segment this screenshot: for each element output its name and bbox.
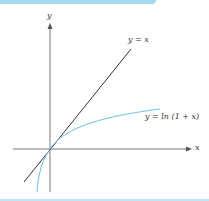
line-label: y = x [128,35,149,44]
y-axis-arrow-icon [48,23,53,29]
line-y-equals-x [24,49,131,182]
curve-label: y = ln (1 + x) [145,112,199,121]
diagram-figure: y x y = x y = ln (1 + x) [0,0,209,201]
plot-canvas [0,0,209,201]
y-axis [48,23,53,192]
curve-ln-1-plus-x [37,109,160,192]
x-axis [13,147,192,152]
x-axis-arrow-icon [186,147,192,152]
y-axis-label: y [47,11,52,20]
x-axis-label: x [195,143,200,152]
